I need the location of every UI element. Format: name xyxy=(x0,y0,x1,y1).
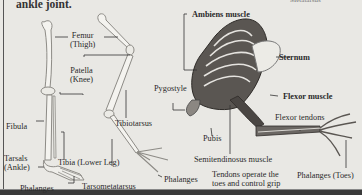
label-tendons-line1: Tendons operate the xyxy=(212,170,280,179)
label-semitendinosus-muscle: Semitendinosus muscle xyxy=(194,155,272,164)
label-fibula: Fibula xyxy=(6,122,27,131)
label-tarsometatarsus: Tarsometatarsus xyxy=(82,182,136,191)
label-human-phalanges: Phalanges xyxy=(20,184,54,193)
label-patella-line2: (Knee) xyxy=(70,75,93,84)
label-femur-line2: (Thigh) xyxy=(70,40,95,49)
label-tendons-line2: toes and control grip xyxy=(212,179,280,188)
label-pubis: Pubis xyxy=(203,134,221,143)
label-patella-line1: Patella xyxy=(70,66,93,75)
label-bird-phalanges: Phalanges xyxy=(164,175,198,184)
label-tarsals-line1: Tarsals xyxy=(4,154,30,163)
label-tibia: Tibia (Lower Leg) xyxy=(58,158,119,167)
label-tendons-note: Tendons operate the toes and control gri… xyxy=(212,170,280,188)
anatomy-diagram: ankle joint. Metatarsus xyxy=(0,0,362,195)
label-tarsals-line2: (Ankle) xyxy=(4,163,30,172)
label-sternum: Sternum xyxy=(279,53,310,62)
label-patella: Patella (Knee) xyxy=(70,66,93,84)
label-tarsals: Tarsals (Ankle) xyxy=(4,154,30,172)
label-phalanges-toes: Phalanges (Toes) xyxy=(297,171,354,180)
label-femur: Femur (Thigh) xyxy=(70,31,95,49)
label-tibiotarsus: Tibiotarsus xyxy=(115,119,152,128)
label-ambiens-muscle: Ambiens muscle xyxy=(192,10,250,19)
label-femur-line1: Femur xyxy=(70,31,95,40)
label-pygostyle: Pygostyle xyxy=(154,84,187,93)
label-flexor-muscle: Flexor muscle xyxy=(283,92,332,101)
label-flexor-tendons: Flexor tendons xyxy=(275,113,325,122)
